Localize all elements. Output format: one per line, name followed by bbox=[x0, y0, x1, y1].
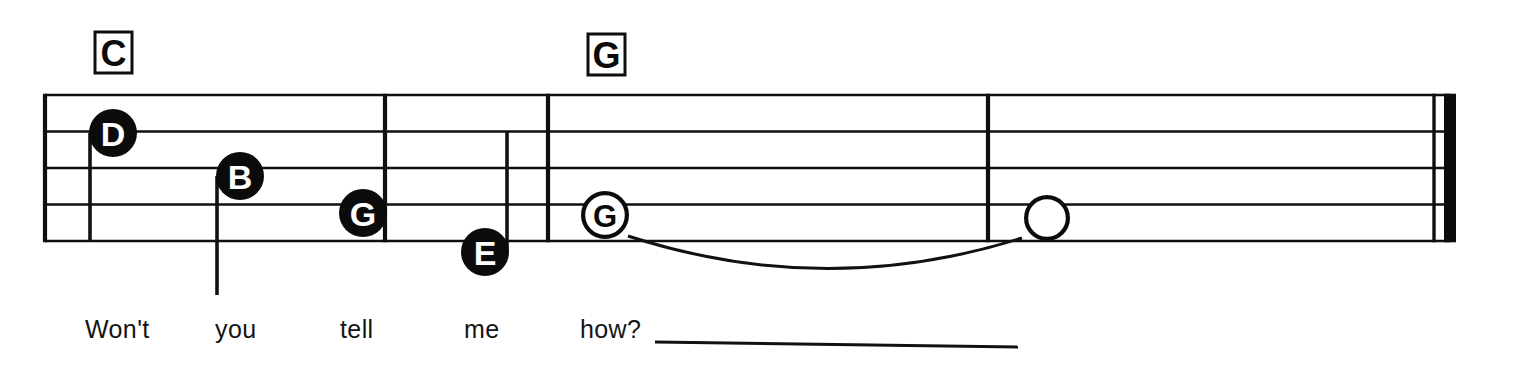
note-letter-label: G bbox=[593, 199, 617, 234]
notehead-group: DBGEG bbox=[89, 109, 1068, 276]
music-notation-canvas: DBGEG CG Won'tyoutellmehow? bbox=[0, 0, 1523, 365]
note-letter-label: E bbox=[474, 234, 497, 272]
lyric-syllable-3: me bbox=[464, 315, 500, 343]
chord-symbol-G[interactable]: G bbox=[588, 34, 625, 76]
final-barline-thick bbox=[1444, 94, 1456, 243]
lyric-syllable-2: tell bbox=[340, 315, 374, 343]
notehead-hollow bbox=[1026, 197, 1068, 239]
note-b: B bbox=[216, 152, 264, 200]
chord-label: C bbox=[101, 33, 127, 74]
note-g-hollow: G bbox=[583, 193, 627, 237]
lyric-line: Won'tyoutellmehow? bbox=[85, 315, 1018, 347]
lyric-syllable-0: Won't bbox=[85, 315, 150, 343]
note-d: D bbox=[89, 109, 137, 157]
chord-symbol-C[interactable]: C bbox=[95, 32, 132, 74]
chord-label: G bbox=[592, 35, 620, 76]
chord-symbol-group: CG bbox=[95, 32, 625, 76]
note-g-filled: G bbox=[339, 189, 387, 237]
note-letter-label: G bbox=[350, 195, 376, 233]
lyric-syllable-1: you bbox=[215, 315, 257, 343]
sheet-music-page: DBGEG CG Won'tyoutellmehow? bbox=[0, 0, 1523, 365]
lyric-syllable-4: how? bbox=[580, 315, 641, 343]
note-letter-label: D bbox=[101, 115, 126, 153]
note-stem-group bbox=[90, 95, 507, 295]
note-blank-hollow bbox=[1026, 197, 1068, 239]
note-letter-label: B bbox=[228, 158, 253, 196]
note-e: E bbox=[461, 228, 509, 276]
lyric-extension-line bbox=[655, 342, 1018, 347]
